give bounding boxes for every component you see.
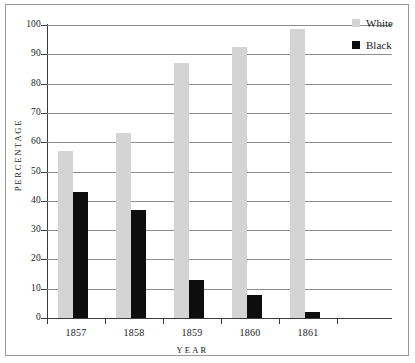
y-axis-tick-mark <box>41 84 47 85</box>
y-axis-tick-label: 90 <box>11 48 41 58</box>
gridline <box>47 230 392 231</box>
gridline <box>47 25 392 26</box>
gridline <box>47 172 392 173</box>
gridline <box>47 318 392 319</box>
gridline <box>47 289 392 290</box>
gridline <box>47 113 392 114</box>
y-axis-tick-mark <box>41 142 47 143</box>
y-axis-tick-mark <box>41 172 47 173</box>
gridline <box>47 259 392 260</box>
chart-legend: WhiteBlack <box>352 12 412 56</box>
gridline <box>47 84 392 85</box>
bar-black-1859 <box>189 280 204 318</box>
bar-white-1860 <box>232 47 247 318</box>
chart-figure: 0102030405060708090100 YEAR PERCENTAGE W… <box>0 0 415 363</box>
y-axis-tick-mark <box>41 25 47 26</box>
y-axis-tick-label: 80 <box>11 78 41 88</box>
y-axis-tick-label: 10 <box>11 283 41 293</box>
legend-label: Black <box>366 39 392 51</box>
x-axis-tick-label: 1859 <box>162 327 222 338</box>
x-axis-tick-label: 1857 <box>46 327 106 338</box>
y-axis-tick-mark <box>41 54 47 55</box>
x-axis-tick-label: 1861 <box>278 327 338 338</box>
x-axis-tick-mark <box>279 318 280 324</box>
bar-black-1860 <box>247 295 262 318</box>
legend-swatch-icon <box>352 19 360 27</box>
gridline <box>47 201 392 202</box>
gridline <box>47 142 392 143</box>
y-axis-tick-label: 100 <box>11 19 41 29</box>
y-axis-tick-mark <box>41 230 47 231</box>
x-axis-tick-mark <box>221 318 222 324</box>
bar-black-1861 <box>305 312 320 318</box>
legend-item-black[interactable]: Black <box>352 34 412 56</box>
bar-white-1857 <box>58 151 73 318</box>
legend-item-white[interactable]: White <box>352 12 412 34</box>
gridline <box>47 54 392 55</box>
y-axis-tick-label: 20 <box>11 253 41 263</box>
x-axis-title: YEAR <box>47 345 338 355</box>
y-axis-tick-mark <box>41 113 47 114</box>
x-axis-tick-mark <box>337 318 338 324</box>
bar-black-1857 <box>73 192 88 318</box>
bar-black-1858 <box>131 210 146 318</box>
bar-white-1861 <box>290 29 305 318</box>
y-axis-tick-mark <box>41 201 47 202</box>
x-axis-tick-mark <box>105 318 106 324</box>
x-axis-tick-mark <box>163 318 164 324</box>
bar-white-1859 <box>174 63 189 318</box>
y-axis-title: PERCENTAGE <box>13 95 23 215</box>
legend-swatch-icon <box>352 41 360 49</box>
x-axis-tick-label: 1858 <box>104 327 164 338</box>
legend-label: White <box>366 17 393 29</box>
y-axis-tick-mark <box>41 289 47 290</box>
x-axis-tick-label: 1860 <box>220 327 280 338</box>
y-axis-tick-label: 0 <box>11 312 41 322</box>
plot-area <box>47 25 337 318</box>
x-axis-tick-mark <box>47 318 48 324</box>
y-axis-tick-mark <box>41 259 47 260</box>
y-axis-tick-labels: 0102030405060708090100 <box>5 0 41 363</box>
bar-white-1858 <box>116 133 131 318</box>
y-axis-tick-label: 30 <box>11 224 41 234</box>
